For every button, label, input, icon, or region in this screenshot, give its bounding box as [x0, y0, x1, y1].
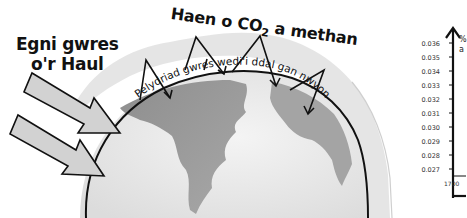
- y-tick: 0.027: [404, 166, 440, 174]
- y-tick: 0.030: [404, 124, 440, 132]
- y-tick: 0.028: [404, 152, 440, 160]
- y-tick: 0.035: [404, 54, 440, 62]
- y-tick: 0.033: [404, 82, 440, 90]
- y-axis-label: % a: [459, 35, 467, 54]
- y-tick: 0.029: [404, 138, 440, 146]
- co2-chart: 0.036 0.035 0.034 0.033 0.032 0.031 0.03…: [404, 22, 466, 172]
- y-tick: 0.031: [404, 110, 440, 118]
- trapped-radiation-label: Pelydriad gwres wedi'i ddal gan nwyon: [132, 55, 333, 100]
- y-tick: 0.034: [404, 68, 440, 76]
- x-tick: 1700: [444, 180, 459, 187]
- y-tick: 0.032: [404, 96, 440, 104]
- y-tick: 0.036: [404, 40, 440, 48]
